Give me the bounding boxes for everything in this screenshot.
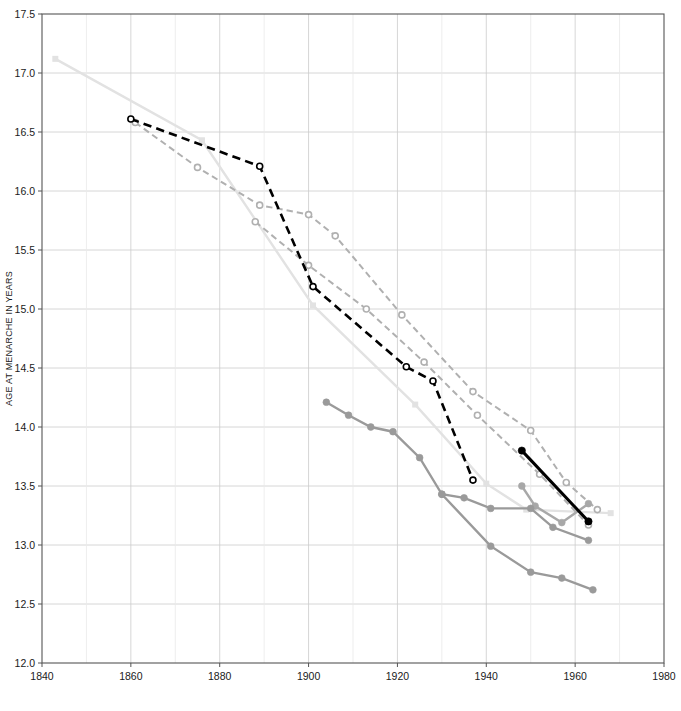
- y-axis-tick-label: 12.5: [15, 598, 36, 610]
- data-point-marker: [257, 202, 263, 208]
- data-point-marker: [585, 537, 592, 544]
- y-axis-tick-label: 13.5: [15, 480, 36, 492]
- data-point-marker: [527, 569, 534, 576]
- data-point-marker: [470, 477, 476, 483]
- data-point-marker: [558, 575, 565, 582]
- data-point-marker: [363, 306, 369, 312]
- data-point-marker: [518, 483, 525, 490]
- series-series-light-gray-solid-filled-right: [518, 483, 591, 526]
- data-point-marker: [310, 284, 316, 290]
- data-point-marker: [412, 402, 418, 408]
- series-line: [55, 59, 610, 513]
- data-point-marker: [487, 543, 494, 550]
- x-axis-tick-label: 1880: [208, 670, 232, 682]
- data-point-marker: [590, 586, 597, 593]
- chart-canvas: 12.012.513.013.514.014.515.015.516.016.5…: [0, 0, 681, 711]
- data-point-marker: [345, 412, 352, 419]
- data-point-marker: [367, 424, 374, 431]
- y-axis-tick-label: 17.5: [15, 8, 36, 20]
- data-point-marker: [487, 505, 494, 512]
- series-line: [522, 486, 589, 523]
- data-point-marker: [527, 505, 534, 512]
- menarche-age-trend-chart: 12.012.513.013.514.014.515.015.516.016.5…: [0, 0, 681, 711]
- y-axis-tick-label: 14.0: [15, 421, 36, 433]
- data-point-marker: [416, 454, 423, 461]
- data-point-marker: [558, 519, 565, 526]
- data-point-marker: [528, 428, 534, 434]
- data-point-marker: [323, 399, 330, 406]
- data-point-marker: [585, 500, 592, 507]
- data-point-marker: [608, 510, 614, 516]
- data-point-marker: [390, 428, 397, 435]
- data-point-marker: [199, 137, 205, 143]
- data-point-marker: [252, 219, 258, 225]
- y-axis-tick-label: 17.0: [15, 67, 36, 79]
- series-line: [326, 402, 588, 540]
- series-series-medium-gray-solid-filled-upper: [323, 399, 592, 544]
- data-point-marker: [563, 479, 569, 485]
- data-point-marker: [421, 359, 427, 365]
- x-axis-tick-label: 1940: [475, 670, 499, 682]
- y-axis-tick-label: 14.5: [15, 362, 36, 374]
- x-axis-tick-label: 1920: [386, 670, 410, 682]
- data-point-marker: [306, 212, 312, 218]
- data-point-marker: [483, 481, 489, 487]
- data-point-marker: [332, 233, 338, 239]
- data-point-marker: [585, 518, 592, 525]
- x-axis-tick-label: 1840: [30, 670, 54, 682]
- y-axis-title: AGE AT MENARCHE IN YEARS: [4, 271, 14, 406]
- data-point-marker: [518, 447, 525, 454]
- x-axis-tick-label: 1980: [652, 670, 676, 682]
- data-point-marker: [52, 56, 58, 62]
- y-axis-tick-label: 16.0: [15, 185, 36, 197]
- series-series-gray-dashed-open-upper: [132, 120, 600, 513]
- y-axis-tick-label: 13.0: [15, 539, 36, 551]
- data-point-marker: [399, 312, 405, 318]
- series-line: [135, 123, 597, 510]
- x-axis-tick-label: 1960: [563, 670, 587, 682]
- data-point-marker: [594, 507, 600, 513]
- y-axis-tick-label: 15.0: [15, 303, 36, 315]
- data-point-marker: [461, 494, 468, 501]
- data-point-marker: [128, 116, 134, 122]
- data-point-marker: [306, 262, 312, 268]
- data-point-marker: [438, 491, 445, 498]
- data-point-marker: [195, 164, 201, 170]
- data-point-marker: [310, 302, 316, 308]
- series-series-black-dashed-open: [128, 116, 476, 483]
- x-axis-tick-label: 1900: [297, 670, 321, 682]
- x-axis-tick-label: 1860: [119, 670, 143, 682]
- y-axis-tick-label: 15.5: [15, 244, 36, 256]
- y-axis-tick-label: 16.5: [15, 126, 36, 138]
- data-point-marker: [474, 412, 480, 418]
- data-point-marker: [257, 163, 263, 169]
- data-point-marker: [470, 389, 476, 395]
- series-line: [131, 119, 473, 480]
- data-point-marker: [550, 524, 557, 531]
- data-point-marker: [430, 378, 436, 384]
- data-point-marker: [403, 364, 409, 370]
- y-axis-tick-label: 12.0: [15, 657, 36, 669]
